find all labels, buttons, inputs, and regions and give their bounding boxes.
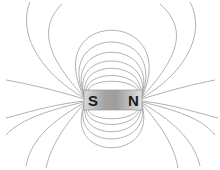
field-line <box>83 106 143 139</box>
field-line <box>142 104 178 168</box>
north-pole-label: N <box>128 92 139 109</box>
field-line <box>85 68 141 93</box>
field-line <box>26 103 84 166</box>
bar-magnet: S N <box>84 90 142 110</box>
field-line <box>86 108 140 125</box>
field-lines-bottom <box>6 101 218 168</box>
field-line <box>86 76 140 93</box>
field-line <box>142 80 215 99</box>
field-line <box>88 81 138 91</box>
magnetic-field-diagram: S N <box>0 0 220 170</box>
field-line <box>88 109 138 119</box>
field-line <box>81 105 144 148</box>
field-line <box>6 102 84 135</box>
field-lines-top <box>6 2 215 99</box>
field-line <box>83 61 143 94</box>
south-pole-label: S <box>88 92 98 109</box>
field-line <box>26 2 84 98</box>
field-line <box>142 103 200 166</box>
field-line <box>46 104 84 168</box>
field-line <box>81 52 144 95</box>
field-line <box>142 2 196 98</box>
field-line <box>85 107 141 132</box>
